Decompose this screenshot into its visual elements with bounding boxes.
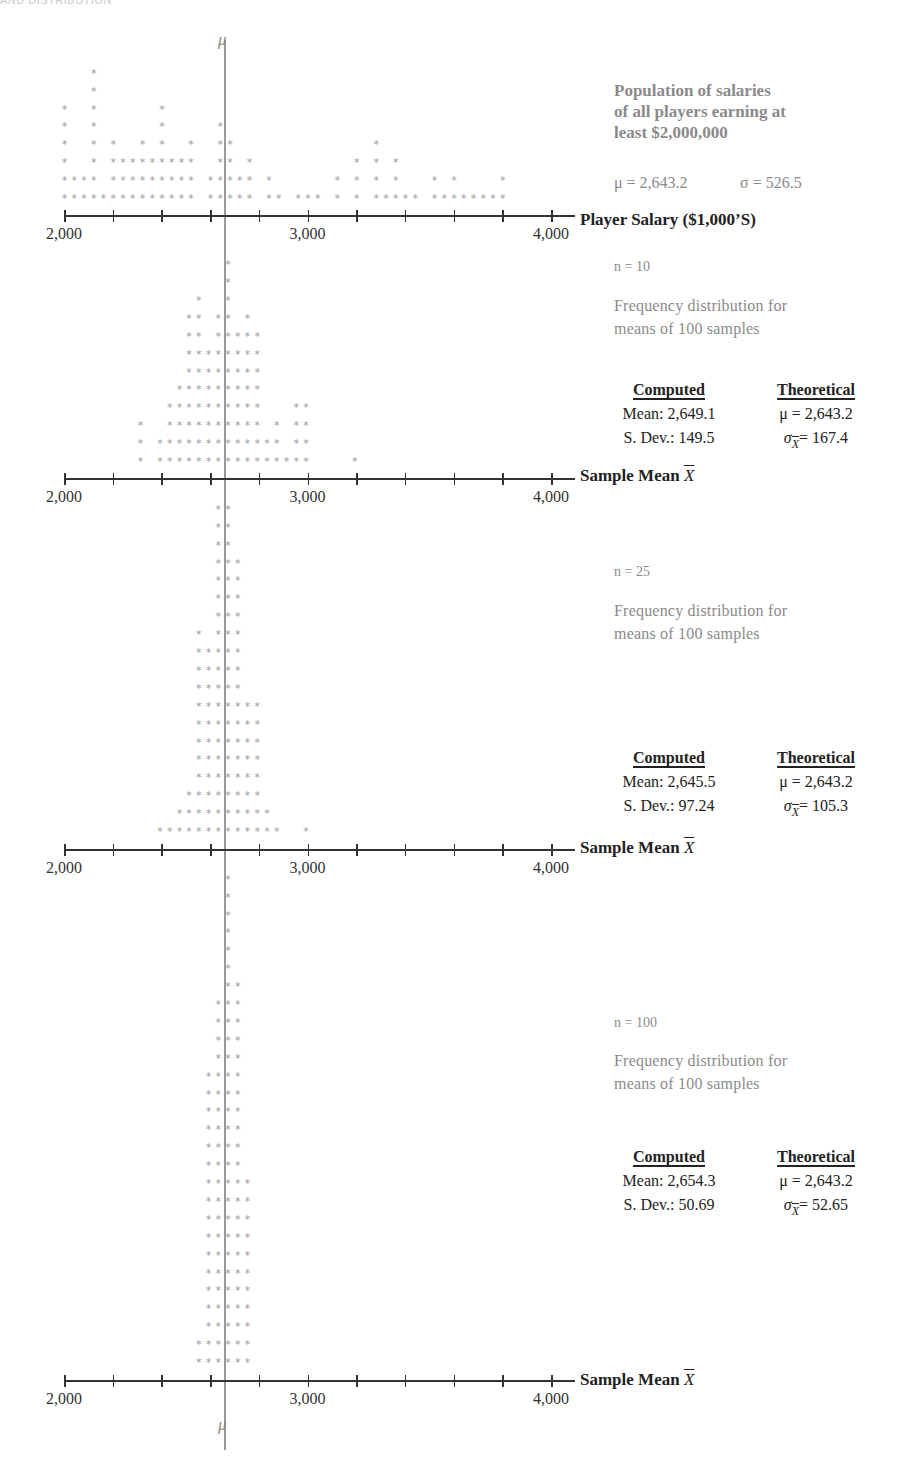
data-point-asterisk: *	[90, 177, 97, 184]
data-point-asterisk: *	[186, 386, 193, 393]
data-point-asterisk: *	[225, 297, 232, 304]
data-point-asterisk: *	[392, 195, 399, 202]
data-point-asterisk: *	[225, 440, 232, 447]
data-point-asterisk: *	[205, 422, 212, 429]
data-point-asterisk: *	[275, 195, 282, 202]
data-point-asterisk: *	[254, 810, 261, 817]
data-point-asterisk: *	[195, 404, 202, 411]
data-point-asterisk: *	[225, 261, 232, 268]
axis-tick	[210, 473, 212, 485]
axis-tick-label: 3,000	[290, 225, 326, 243]
data-point-asterisk: *	[225, 524, 232, 531]
data-point-asterisk: *	[195, 386, 202, 393]
data-point-asterisk: *	[225, 929, 232, 936]
data-point-asterisk: *	[225, 1144, 232, 1151]
data-point-asterisk: *	[119, 177, 126, 184]
data-point-asterisk: *	[205, 774, 212, 781]
axis-tick	[210, 1375, 212, 1387]
data-point-asterisk: *	[186, 333, 193, 340]
data-point-asterisk: *	[402, 195, 409, 202]
data-point-asterisk: *	[225, 1252, 232, 1259]
data-point-asterisk: *	[244, 792, 251, 799]
panel-1-desc-line-1: Frequency distribution for	[614, 294, 854, 317]
data-point-asterisk: *	[176, 386, 183, 393]
data-point-asterisk: *	[61, 141, 68, 148]
axis-tick	[405, 1375, 407, 1387]
theoretical-header: Theoretical	[756, 378, 876, 402]
population-title-line-2: of all players earning at	[614, 101, 854, 122]
data-point-asterisk: *	[451, 195, 458, 202]
axis-tick	[356, 1375, 358, 1387]
data-point-asterisk: *	[186, 369, 193, 376]
theoretical-header: Theoretical	[756, 1145, 876, 1169]
data-point-asterisk: *	[225, 1037, 232, 1044]
data-point-asterisk: *	[90, 123, 97, 130]
panel-1-n-label: n = 10	[614, 259, 650, 275]
data-point-asterisk: *	[266, 177, 273, 184]
data-point-asterisk: *	[451, 177, 458, 184]
panel-3-axis-title: Sample Mean X	[580, 1370, 694, 1390]
data-point-asterisk: *	[215, 613, 222, 620]
data-point-asterisk: *	[205, 756, 212, 763]
data-point-asterisk: *	[205, 1234, 212, 1241]
data-point-asterisk: *	[215, 703, 222, 710]
data-point-asterisk: *	[225, 369, 232, 376]
data-point-asterisk: *	[234, 828, 241, 835]
data-point-asterisk: *	[215, 458, 222, 465]
data-point-asterisk: *	[205, 458, 212, 465]
axis-tick-label: 2,000	[46, 488, 82, 506]
population-sigma: σ = 526.5	[740, 174, 802, 192]
data-point-asterisk: *	[119, 195, 126, 202]
data-point-asterisk: *	[149, 177, 156, 184]
data-point-asterisk: *	[234, 1091, 241, 1098]
data-point-asterisk: *	[244, 703, 251, 710]
data-point-asterisk: *	[215, 774, 222, 781]
panel-2-desc-line-1: Frequency distribution for	[614, 599, 854, 622]
axis-tick	[454, 1375, 456, 1387]
data-point-asterisk: *	[225, 1180, 232, 1187]
theoretical-sigma: σX= 105.3	[756, 794, 876, 819]
data-point-asterisk: *	[195, 369, 202, 376]
data-point-asterisk: *	[176, 810, 183, 817]
data-point-asterisk: *	[244, 1270, 251, 1277]
x-axis-3	[64, 1380, 575, 1382]
data-point-asterisk: *	[205, 792, 212, 799]
axis-tick	[64, 210, 66, 222]
data-point-asterisk: *	[195, 631, 202, 638]
data-point-asterisk: *	[225, 756, 232, 763]
data-point-asterisk: *	[273, 440, 280, 447]
data-point-asterisk: *	[392, 159, 399, 166]
data-point-asterisk: *	[490, 195, 497, 202]
data-point-asterisk: *	[225, 703, 232, 710]
data-point-asterisk: *	[158, 106, 165, 113]
axis-tick	[259, 844, 261, 856]
data-point-asterisk: *	[166, 458, 173, 465]
data-point-asterisk: *	[215, 386, 222, 393]
axis-tick-label: 4,000	[533, 488, 569, 506]
data-point-asterisk: *	[178, 159, 185, 166]
data-point-asterisk: *	[158, 177, 165, 184]
data-point-asterisk: *	[303, 458, 310, 465]
axis-tick	[308, 473, 310, 485]
data-point-asterisk: *	[205, 1126, 212, 1133]
data-point-asterisk: *	[234, 1270, 241, 1277]
axis-tick	[502, 844, 504, 856]
data-point-asterisk: *	[234, 739, 241, 746]
data-point-asterisk: *	[234, 667, 241, 674]
data-point-asterisk: *	[244, 810, 251, 817]
data-point-asterisk: *	[234, 440, 241, 447]
data-point-asterisk: *	[205, 1198, 212, 1205]
data-point-asterisk: *	[100, 195, 107, 202]
data-point-asterisk: *	[254, 756, 261, 763]
data-point-asterisk: *	[234, 1252, 241, 1259]
computed-header: Computed	[606, 746, 732, 770]
data-point-asterisk: *	[195, 756, 202, 763]
data-point-asterisk: *	[215, 542, 222, 549]
data-point-asterisk: *	[234, 1234, 241, 1241]
theoretical-mu: μ = 2,643.2	[756, 770, 876, 794]
data-point-asterisk: *	[234, 351, 241, 358]
data-point-asterisk: *	[195, 315, 202, 322]
data-point-asterisk: *	[244, 458, 251, 465]
panel-2-description: Frequency distribution for means of 100 …	[614, 599, 854, 645]
data-point-asterisk: *	[234, 1341, 241, 1348]
